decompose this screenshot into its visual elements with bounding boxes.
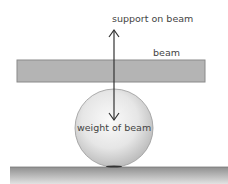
weight-label: weight of beam [77,122,151,133]
diagram-canvas: support on beam beam weight of beam [0,0,228,184]
ground [10,167,228,184]
beam [17,60,205,82]
support-label: support on beam [112,13,193,24]
beam-label: beam [153,47,180,58]
